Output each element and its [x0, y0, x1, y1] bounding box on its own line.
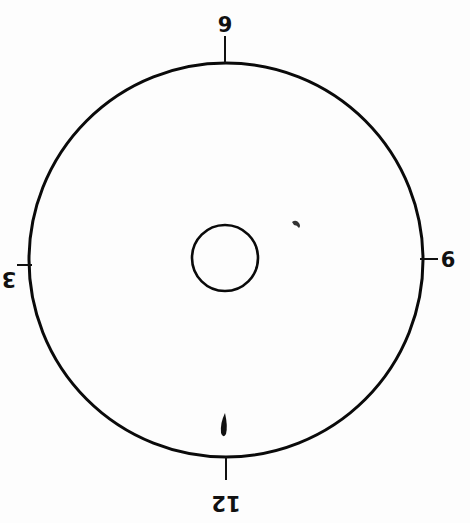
clock-diagram: 9 6 12 3 [0, 0, 470, 523]
outer-circle [29, 63, 423, 457]
teardrop-mark [221, 413, 227, 436]
label-right: 6 [441, 248, 456, 272]
label-bottom: 12 [211, 491, 240, 515]
label-top: 9 [218, 13, 233, 37]
label-left: 3 [2, 267, 17, 291]
small-curl-mark [292, 221, 300, 228]
inner-circle [192, 225, 258, 291]
